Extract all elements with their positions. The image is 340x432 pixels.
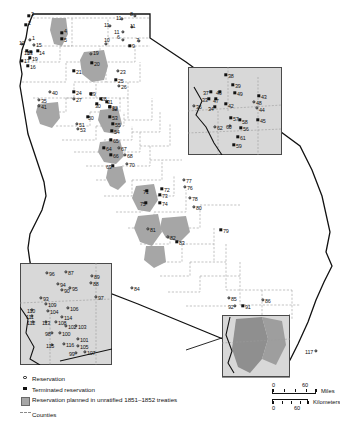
map-point-label-52: 52 bbox=[112, 107, 118, 112]
map-point-label-88: 88 bbox=[93, 282, 99, 287]
legend-item-terminated-reservation: Terminated reservation bbox=[18, 386, 188, 393]
map-point-label-46: 46 bbox=[216, 91, 222, 96]
map-point-label-11d: 11 bbox=[130, 24, 135, 29]
map-point-label-56: 56 bbox=[243, 127, 249, 132]
map-point-label-9: 9 bbox=[132, 44, 135, 49]
map-point-label-27: 27 bbox=[76, 98, 82, 103]
map-point-label-84: 84 bbox=[134, 287, 140, 292]
legend-label-counties: Counties bbox=[32, 411, 56, 418]
map-point-label-81: 81 bbox=[150, 228, 156, 233]
map-point-37[interactable] bbox=[209, 90, 212, 93]
map-point-label-55: 55 bbox=[115, 123, 121, 128]
map-point-label-62: 62 bbox=[217, 126, 223, 131]
map-point-label-96: 96 bbox=[49, 272, 55, 277]
southeast-inset-detail bbox=[222, 315, 290, 377]
map-point-label-67: 67 bbox=[121, 147, 127, 152]
map-point-label-115: 115 bbox=[46, 344, 54, 349]
map-point-label-58: 58 bbox=[242, 120, 248, 125]
map-point-label-7: 7 bbox=[136, 38, 139, 43]
map-point-label-114: 114 bbox=[64, 316, 72, 321]
map-point-label-16: 16 bbox=[30, 65, 36, 70]
miles-min: 0 bbox=[272, 382, 275, 388]
map-point-label-77: 77 bbox=[186, 179, 192, 184]
map-point-label-87: 87 bbox=[68, 271, 74, 276]
map-point-label-40: 40 bbox=[52, 91, 58, 96]
map-point-label-20: 20 bbox=[94, 62, 100, 67]
map-point-label-69: 69 bbox=[106, 165, 112, 170]
map-point-label-44: 44 bbox=[259, 108, 265, 113]
scale-bar: 0 60 Miles Kilometers 0 60 bbox=[272, 382, 334, 411]
map-point-label-73: 73 bbox=[162, 194, 168, 199]
map-point-label-34: 34 bbox=[208, 107, 214, 112]
map-point-label-65: 65 bbox=[113, 139, 119, 144]
map-point-label-42: 42 bbox=[228, 104, 234, 109]
map-point-label-48: 48 bbox=[256, 101, 262, 106]
map-point-label-60: 60 bbox=[226, 125, 232, 130]
map-point-label-11c: 11 bbox=[114, 30, 119, 35]
map-point-label-12: 12 bbox=[19, 41, 25, 46]
map-point-label-106: 106 bbox=[70, 307, 78, 312]
map-point-label-33: 33 bbox=[202, 98, 208, 103]
map-point-label-41: 41 bbox=[41, 105, 47, 110]
map-point-label-94: 94 bbox=[60, 283, 66, 288]
map-point-label-53b: 53 bbox=[80, 128, 86, 133]
map-point-label-76: 76 bbox=[187, 186, 193, 191]
map-point-label-71: 71 bbox=[143, 190, 149, 195]
map-point-label-17: 17 bbox=[24, 59, 30, 64]
map-point-label-54: 54 bbox=[114, 130, 120, 135]
map-point-label-117: 117 bbox=[305, 350, 313, 355]
map-point-label-53: 53 bbox=[112, 116, 118, 121]
map-point-label-104: 104 bbox=[50, 310, 58, 315]
map-point-label-19: 19 bbox=[32, 57, 38, 62]
legend: Reservation Terminated reservation Reser… bbox=[18, 375, 188, 422]
map-point-label-8: 8 bbox=[130, 12, 133, 17]
map-point-label-49: 49 bbox=[237, 92, 243, 97]
map-point-label-109: 109 bbox=[48, 303, 56, 308]
map-point-label-50: 50 bbox=[88, 116, 94, 121]
km-min: 0 bbox=[272, 405, 275, 411]
map-point-label-83: 83 bbox=[179, 241, 185, 246]
map-point-label-66: 66 bbox=[113, 154, 119, 159]
open-circle-icon bbox=[18, 375, 32, 379]
map-point-label-59: 59 bbox=[236, 144, 242, 149]
northeast-inset-detail bbox=[188, 67, 282, 155]
legend-label-terminated-reservation: Terminated reservation bbox=[32, 386, 95, 393]
map-point-label-103: 103 bbox=[78, 325, 86, 330]
map-point-label-108: 108 bbox=[58, 321, 66, 326]
map-point-label-116: 116 bbox=[66, 343, 74, 348]
filled-square-icon bbox=[18, 386, 32, 390]
map-point-label-2: 2 bbox=[28, 21, 31, 26]
map-point-label-30: 30 bbox=[95, 104, 101, 109]
map-point-label-80: 80 bbox=[196, 206, 202, 211]
map-point-label-113: 113 bbox=[42, 321, 50, 326]
map-point-label-97: 97 bbox=[98, 296, 104, 301]
map-point-label-74: 74 bbox=[162, 202, 168, 207]
map-point-label-75: 75 bbox=[140, 202, 146, 207]
map-point-label-26: 26 bbox=[121, 85, 127, 90]
map-point-label-11b: 11 bbox=[116, 16, 121, 21]
map-point-label-23: 23 bbox=[120, 70, 126, 75]
legend-item-counties: Counties bbox=[18, 411, 188, 418]
map-point-label-78: 78 bbox=[192, 197, 198, 202]
map-point-label-37: 37 bbox=[203, 91, 209, 96]
legend-item-reservation: Reservation bbox=[18, 375, 188, 382]
map-point-label-29: 29 bbox=[90, 92, 96, 97]
map-point-label-91: 91 bbox=[245, 305, 251, 310]
map-point-label-14: 14 bbox=[39, 51, 45, 56]
map-point-label-36: 36 bbox=[196, 105, 202, 110]
map-point-label-5: 5 bbox=[64, 38, 67, 43]
legend-item-planned-reservation: Reservation planned in unratified 1851–1… bbox=[18, 396, 188, 406]
map-point-label-6: 6 bbox=[117, 35, 120, 40]
map-point-label-64: 64 bbox=[106, 147, 112, 152]
map-point-label-24: 24 bbox=[76, 91, 82, 96]
miles-max: 60 bbox=[302, 382, 308, 388]
map-point-label-39: 39 bbox=[235, 84, 241, 89]
map-point-label-107: 107 bbox=[87, 351, 95, 356]
map-point-label-68: 68 bbox=[127, 154, 133, 159]
map-point-label-47: 47 bbox=[213, 99, 219, 104]
miles-unit: Miles bbox=[321, 388, 335, 394]
map-point-label-3: 3 bbox=[31, 12, 34, 17]
map-point-label-99: 99 bbox=[69, 352, 75, 357]
map-point-label-45: 45 bbox=[260, 119, 266, 124]
map-point-label-112: 112 bbox=[27, 321, 35, 326]
